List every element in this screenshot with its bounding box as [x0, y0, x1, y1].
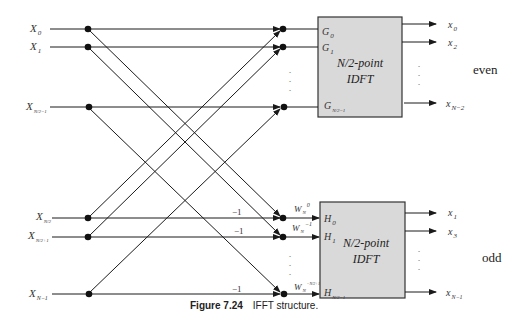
output-subscript: 1: [453, 213, 457, 221]
even-label: even: [473, 62, 498, 78]
multiplier-label-1: −1: [234, 226, 244, 236]
output-symbol: x: [448, 19, 452, 30]
sum-node-4: [280, 234, 287, 241]
top-output-2: xN−2: [446, 99, 464, 109]
input-label-3: XN/2: [36, 211, 51, 222]
multiplier-label-2: −1: [232, 284, 242, 294]
top-output-1: x2: [448, 38, 457, 48]
input-subscript: 0: [38, 29, 42, 37]
input-node-2: [86, 104, 93, 111]
input-symbol: X: [28, 229, 35, 241]
input-symbol: X: [30, 22, 37, 34]
input-label-0: X0: [30, 23, 41, 34]
ellipsis-vertical: ···: [416, 62, 422, 89]
input-node-1: [85, 44, 92, 51]
port-symbol: H: [324, 213, 331, 224]
twiddle-symbol: W: [294, 282, 302, 292]
bottom-output-2: xN−1: [446, 288, 463, 298]
output-symbol: x: [446, 287, 450, 298]
input-subscript: N−1: [37, 295, 48, 301]
sum-node-0: [280, 26, 287, 33]
output-symbol: x: [448, 37, 452, 48]
twiddle-superscript: −N/2+1: [307, 281, 320, 286]
input-label-2: XN/2−1: [26, 101, 47, 112]
block-title-line1: N/2-point: [324, 236, 408, 252]
port-subscript: N/2−1: [332, 295, 345, 300]
twiddle-superscript: −1: [305, 221, 312, 227]
caption-text: IFFT structure.: [253, 300, 318, 311]
ellipsis-vertical: ···: [416, 247, 422, 274]
top-port-0: G0: [322, 27, 334, 37]
port-symbol: G: [324, 100, 331, 111]
port-subscript: 0: [332, 219, 336, 227]
bottom-port-2: HN/2−1: [324, 288, 345, 298]
port-symbol: G: [322, 42, 329, 53]
top-port-2: GN/2−1: [324, 101, 345, 111]
sum-node-3: [280, 215, 287, 222]
twiddle-0: WN0: [294, 205, 310, 214]
twiddle-subscript: N: [303, 210, 306, 215]
sum-node-1: [280, 44, 287, 51]
input-node-0: [85, 26, 92, 33]
sum-node-5: [281, 291, 288, 298]
input-subscript: N/2: [44, 219, 51, 224]
top-block-title: N/2-point IDFT: [318, 56, 402, 87]
input-node-5: [86, 291, 93, 298]
twiddle-symbol: W: [294, 204, 302, 214]
bottom-output-0: x1: [448, 208, 457, 218]
caption-number: Figure 7.24: [190, 300, 243, 311]
output-symbol: x: [448, 207, 452, 218]
block-title-line1: N/2-point: [318, 56, 402, 72]
twiddle-subscript: N: [303, 288, 306, 293]
input-subscript: N/2+1: [36, 238, 49, 243]
multiplier-label-0: −1: [232, 207, 242, 217]
output-subscript: N−2: [451, 104, 464, 112]
input-node-4: [85, 234, 92, 241]
twiddle-1: WN−1: [292, 224, 312, 233]
sum-node-2: [281, 104, 288, 111]
input-symbol: X: [26, 100, 33, 112]
odd-label: odd: [482, 250, 502, 266]
input-node-3: [85, 215, 92, 222]
output-subscript: 3: [453, 232, 457, 240]
bottom-block-title: N/2-point IDFT: [324, 236, 408, 267]
port-subscript: 0: [330, 32, 334, 40]
figure-caption: Figure 7.24IFFT structure.: [190, 300, 318, 311]
output-symbol: x: [446, 98, 450, 109]
input-label-4: XN/2+1: [28, 230, 49, 241]
twiddle-subscript: N: [301, 229, 304, 234]
port-subscript: 1: [330, 48, 334, 56]
input-symbol: X: [29, 287, 36, 299]
top-port-1: G1: [322, 43, 334, 53]
output-subscript: 2: [453, 43, 457, 51]
port-symbol: G: [322, 26, 329, 37]
block-title-line2: IDFT: [324, 252, 408, 268]
port-subscript: N/2−1: [332, 108, 345, 113]
block-title-line2: IDFT: [318, 72, 402, 88]
input-symbol: X: [36, 210, 43, 222]
ellipsis-vertical: ···: [287, 68, 293, 95]
twiddle-superscript: 0: [307, 202, 310, 208]
top-output-0: x0: [448, 20, 457, 30]
bottom-output-1: x3: [448, 227, 457, 237]
ellipsis-vertical: ···: [287, 252, 293, 279]
input-subscript: N/2−1: [34, 109, 47, 114]
output-symbol: x: [448, 226, 452, 237]
input-label-1: X1: [30, 41, 41, 52]
twiddle-symbol: W: [292, 223, 300, 233]
port-symbol: H: [324, 287, 331, 298]
input-label-5: XN−1: [29, 288, 48, 299]
output-subscript: N−1: [451, 294, 462, 300]
output-subscript: 0: [453, 25, 457, 33]
input-subscript: 1: [38, 47, 42, 55]
bottom-port-0: H0: [324, 214, 336, 224]
input-symbol: X: [30, 40, 37, 52]
twiddle-2: WN−N/2+1: [294, 283, 320, 292]
